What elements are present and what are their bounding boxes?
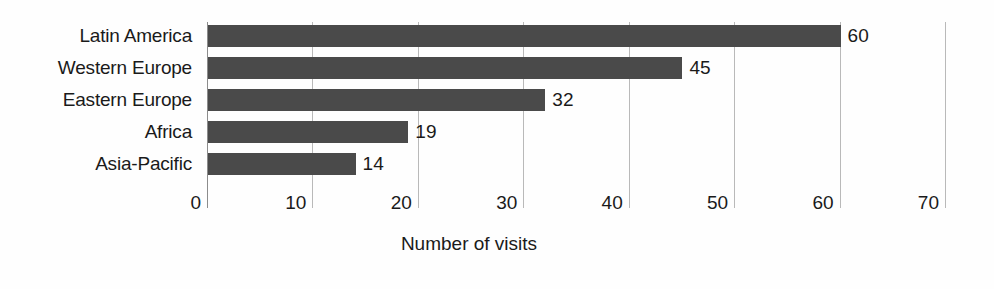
gridline-60 <box>840 22 841 208</box>
gridline-30 <box>523 22 524 208</box>
plot-area: 6045321914 <box>207 22 945 208</box>
category-label: Africa <box>145 121 192 143</box>
category-label: Eastern Europe <box>63 89 192 111</box>
x-axis-title: Number of visits <box>0 233 994 255</box>
x-tick-label: 50 <box>707 192 734 214</box>
gridline-40 <box>629 22 630 208</box>
category-axis-labels: Latin AmericaWestern EuropeEastern Europ… <box>0 22 200 186</box>
bar-value-label: 14 <box>363 153 384 175</box>
bar <box>208 57 682 79</box>
x-axis-title-text: Number of visits <box>401 233 537 255</box>
x-tick-label: 20 <box>391 192 418 214</box>
x-tick-label: 30 <box>496 192 523 214</box>
x-tick-label: 0 <box>190 192 207 214</box>
bar-chart: 6045321914 Latin AmericaWestern EuropeEa… <box>0 0 994 289</box>
category-label: Western Europe <box>58 57 192 79</box>
bar <box>208 153 356 175</box>
category-label: Latin America <box>79 25 192 47</box>
x-tick-label: 70 <box>918 192 945 214</box>
gridline-70 <box>945 22 946 208</box>
y-axis-line <box>207 22 208 208</box>
gridline-20 <box>418 22 419 208</box>
x-tick-label: 40 <box>602 192 629 214</box>
bar-value-label: 60 <box>848 25 869 47</box>
x-tick-label: 10 <box>285 192 312 214</box>
bar <box>208 25 841 47</box>
bar <box>208 89 545 111</box>
gridline-50 <box>734 22 735 208</box>
bar-value-label: 45 <box>689 57 710 79</box>
gridline-10 <box>312 22 313 208</box>
bar-value-label: 32 <box>552 89 573 111</box>
bar <box>208 121 408 143</box>
category-label: Asia-Pacific <box>95 153 192 175</box>
x-tick-label: 60 <box>812 192 839 214</box>
bar-value-label: 19 <box>415 121 436 143</box>
